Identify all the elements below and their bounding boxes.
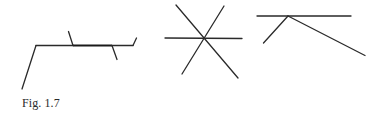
right-end-upturn xyxy=(133,38,137,46)
right-long-branch xyxy=(288,16,365,56)
left-short-branch xyxy=(264,16,289,43)
left-rising-line xyxy=(22,46,36,90)
diagonal-line-ascending xyxy=(182,6,224,74)
tick-mark-right xyxy=(112,46,117,60)
diagonal-line-descending xyxy=(176,5,238,78)
panel-branching-lines xyxy=(257,16,365,56)
tick-mark-left xyxy=(69,32,74,46)
panel-broken-line xyxy=(22,32,137,90)
panel-concurrent-lines xyxy=(165,5,242,78)
figure-caption: Fig. 1.7 xyxy=(22,96,60,111)
